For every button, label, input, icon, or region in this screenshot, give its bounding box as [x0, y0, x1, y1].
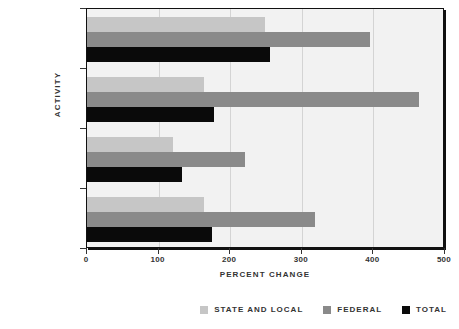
x-axis-tick-label-0: 0	[66, 255, 106, 264]
x-axis-tick-label-500: 500	[424, 255, 459, 264]
y-axis-title: Activity	[53, 40, 62, 150]
bar-police-state-and-local	[87, 137, 173, 152]
plot-area	[86, 8, 444, 248]
x-axis-title: Percent Change	[86, 270, 444, 279]
gridline	[373, 9, 374, 247]
legend-item-state-and-local[interactable]: State and local	[200, 305, 303, 314]
bar-legal-state-and-local	[87, 77, 204, 92]
x-axis-tick-label-300: 300	[281, 255, 321, 264]
bar-police-federal	[87, 152, 245, 167]
x-axis-tick-label-200: 200	[209, 255, 249, 264]
legend-item-total[interactable]: Total	[402, 305, 447, 314]
x-axis-tick	[86, 248, 87, 254]
legend-swatch-icon	[402, 306, 410, 314]
bar-corrections-state-and-local	[87, 17, 265, 32]
x-axis-tick-label-400: 400	[352, 255, 392, 264]
x-axis-tick	[301, 248, 302, 254]
x-axis-tick	[444, 248, 445, 254]
chart-legend: State and localFederalTotal	[0, 305, 459, 314]
legend-swatch-icon	[323, 306, 331, 314]
legend-label: Total	[416, 305, 447, 314]
bar-corrections-total	[87, 47, 270, 62]
x-axis-tick-label-100: 100	[138, 255, 178, 264]
legend-item-federal[interactable]: Federal	[323, 305, 382, 314]
legend-label: State and local	[214, 305, 303, 314]
x-axis-tick	[372, 248, 373, 254]
bar-chart: Activity CorrectionsLegalPoliceTotal 010…	[0, 0, 459, 329]
bar-police-total	[87, 167, 182, 182]
x-axis-tick	[158, 248, 159, 254]
bar-legal-federal	[87, 92, 419, 107]
bar-legal-total	[87, 107, 214, 122]
bar-total-state-and-local	[87, 197, 204, 212]
legend-swatch-icon	[200, 306, 208, 314]
x-axis-tick	[229, 248, 230, 254]
bar-total-total	[87, 227, 212, 242]
legend-label: Federal	[337, 305, 382, 314]
bar-corrections-federal	[87, 32, 370, 47]
bar-total-federal	[87, 212, 315, 227]
